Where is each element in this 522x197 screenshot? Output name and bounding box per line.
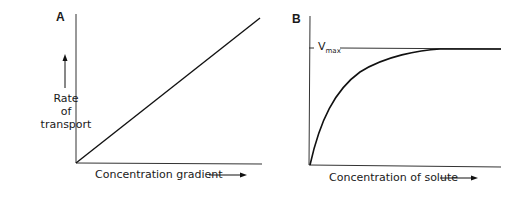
panel-a-label: A [56, 10, 65, 24]
panel-b-xlabel: Concentration of solute [329, 171, 458, 184]
ylabel-line-3: transport [38, 118, 94, 131]
panel-a-linear-line [76, 18, 260, 163]
panel-b-y-axis [309, 16, 310, 165]
panel-b-x-arrowhead-icon [471, 176, 478, 181]
ylabel-line-1: Rate [38, 92, 94, 105]
panel-a-x-axis [76, 163, 262, 164]
panel-a-xlabel: Concentration gradient [95, 168, 223, 181]
ylabel-line-2: of [38, 105, 94, 118]
vmax-sub: max [326, 47, 341, 55]
panel-b-label: B [292, 12, 301, 26]
panel-a-y-arrowhead-icon [63, 54, 68, 61]
panel-a-x-arrowhead-icon [240, 173, 247, 178]
panel-b-x-axis [309, 165, 501, 167]
panel-a-ylabel: Rate of transport [38, 92, 94, 131]
panel-b-vmax-label: Vmax [318, 40, 341, 58]
vmax-v: V [318, 40, 326, 53]
panel-b-saturation-curve [310, 49, 501, 165]
